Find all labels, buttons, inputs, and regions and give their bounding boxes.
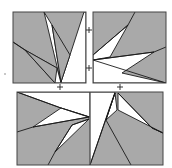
panel-top-left: [13, 12, 86, 83]
registration-plus-mark: [86, 27, 92, 33]
registration-plus-mark: [57, 84, 63, 90]
figure-canvas: [0, 0, 172, 168]
registration-plus-mark: [117, 84, 123, 90]
panel-top-right: [93, 12, 166, 83]
registration-plus-mark: [86, 65, 92, 71]
quilt-pattern-diagram: [0, 0, 172, 168]
panel-bottom: [17, 92, 163, 165]
stray-dot: [4, 73, 5, 74]
